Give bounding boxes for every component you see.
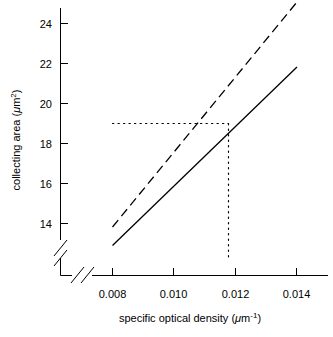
x-tick-label-0008: 0.008 [99, 288, 127, 300]
x-axis-title: specific optical density (μm-1) [119, 311, 261, 324]
y-tick-label-18: 18 [40, 138, 52, 150]
x-axis-title-main: specific optical density ( [119, 312, 235, 324]
y-axis-title-mu: μ [10, 107, 22, 114]
chart-figure: 24 22 20 18 16 14 0.008 0.010 0.012 0.01… [0, 0, 333, 337]
y-axis-title: collecting area (μm2) [9, 90, 22, 191]
collecting-area-vs-optical-density-plot: 24 22 20 18 16 14 0.008 0.010 0.012 0.01… [0, 0, 333, 337]
x-tick-label-0010: 0.010 [160, 288, 188, 300]
y-axis-title-main: collecting area ( [10, 113, 22, 191]
y-tick-label-24: 24 [40, 18, 52, 30]
x-tick-label-0014: 0.014 [283, 288, 311, 300]
y-axis-title-close: ) [10, 90, 22, 94]
x-tick-label-0012: 0.012 [222, 288, 250, 300]
x-axis-title-mu: μ [234, 312, 241, 324]
y-axis-title-m: m [10, 98, 22, 107]
y-tick-label-22: 22 [40, 58, 52, 70]
x-axis-title-m: m [241, 312, 250, 324]
y-tick-label-16: 16 [40, 178, 52, 190]
x-axis-title-close: ) [257, 312, 261, 324]
y-tick-label-14: 14 [40, 218, 52, 230]
plot-background [0, 0, 333, 337]
y-tick-label-20: 20 [40, 98, 52, 110]
